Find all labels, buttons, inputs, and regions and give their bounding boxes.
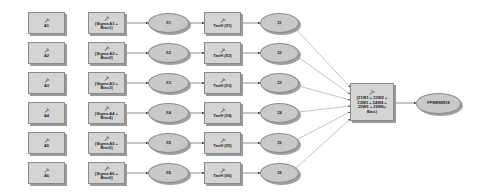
node-label: Z5 — [277, 141, 282, 146]
tanh-node-2[interactable]: TanH (X2) — [204, 42, 241, 64]
variable-z4[interactable]: Z4 — [260, 103, 299, 123]
node-label: [Sigma A1 + Bias1] — [95, 22, 118, 31]
hammer-icon — [44, 168, 50, 173]
sum-node-6[interactable]: [Sigma A6 + Bias6] — [88, 162, 125, 184]
hammer-icon — [220, 48, 226, 53]
hammer-icon — [104, 76, 110, 81]
node-label: A5 — [44, 144, 49, 149]
variable-z5[interactable]: Z5 — [260, 133, 299, 153]
node-label: Z6 — [277, 171, 282, 176]
node-label: X3 — [166, 81, 171, 86]
node-label: TanH (X2) — [213, 54, 231, 59]
hammer-icon — [104, 106, 110, 111]
input-node-a3[interactable]: A3 — [28, 72, 65, 94]
variable-x3[interactable]: X3 — [148, 73, 189, 93]
tanh-node-1[interactable]: TanH (X1) — [204, 12, 241, 34]
hammer-icon — [44, 138, 50, 143]
node-label: A1 — [44, 24, 49, 29]
variable-x2[interactable]: X2 — [148, 43, 189, 63]
node-label: [Sigma A6 + Bias6] — [95, 172, 118, 181]
node-label: [Z1W1 + Z2W2 + Z3W3 + Z4W4 + Z5W5 + Z6W6… — [357, 96, 388, 114]
variable-z1[interactable]: Z1 — [260, 13, 299, 33]
hammer-icon — [104, 16, 110, 21]
node-label: Z1 — [277, 21, 282, 26]
node-label: X6 — [166, 171, 171, 176]
node-label: TanH (X5) — [213, 144, 231, 149]
node-label: [Sigma A2 + Bias2] — [95, 52, 118, 61]
hammer-icon — [44, 48, 50, 53]
hammer-icon — [220, 138, 226, 143]
output-node[interactable]: FPMKMM18 — [416, 93, 461, 114]
variable-z3[interactable]: Z3 — [260, 73, 299, 93]
input-node-a5[interactable]: A5 — [28, 132, 65, 154]
sum-node-2[interactable]: [Sigma A2 + Bias2] — [88, 42, 125, 64]
hammer-icon — [220, 108, 226, 113]
node-label: [Sigma A5 + Bias5] — [95, 142, 118, 151]
node-label: [Sigma A4 + Bias4] — [95, 112, 118, 121]
sum-node-5[interactable]: [Sigma A5 + Bias5] — [88, 132, 125, 154]
node-label: [Sigma A3 + Bias3] — [95, 82, 118, 91]
node-label: TanH (X3) — [213, 84, 231, 89]
tanh-node-3[interactable]: TanH (X3) — [204, 72, 241, 94]
variable-z6[interactable]: Z6 — [260, 163, 299, 183]
node-label: Z3 — [277, 81, 282, 86]
sum-node-3[interactable]: [Sigma A3 + Bias3] — [88, 72, 125, 94]
hammer-icon — [220, 78, 226, 83]
node-label: FPMKMM18 — [427, 101, 449, 106]
hammer-icon — [220, 18, 226, 23]
input-node-a1[interactable]: A1 — [28, 12, 65, 34]
input-node-a2[interactable]: A2 — [28, 42, 65, 64]
node-label: A3 — [44, 84, 49, 89]
hammer-icon — [104, 136, 110, 141]
variable-x1[interactable]: X1 — [148, 13, 189, 33]
sum-node-1[interactable]: [Sigma A1 + Bias1] — [88, 12, 125, 34]
tanh-node-5[interactable]: TanH (X5) — [204, 132, 241, 154]
sum-node-4[interactable]: [Sigma A4 + Bias4] — [88, 102, 125, 124]
hammer-icon — [44, 18, 50, 23]
node-label: A2 — [44, 54, 49, 59]
tanh-node-4[interactable]: TanH (X4) — [204, 102, 241, 124]
tanh-node-6[interactable]: TanH (X6) — [204, 162, 241, 184]
node-label: Z4 — [277, 111, 282, 116]
node-label: X5 — [166, 141, 171, 146]
hammer-icon — [220, 168, 226, 173]
input-node-a6[interactable]: A6 — [28, 162, 65, 184]
variable-x4[interactable]: X4 — [148, 103, 189, 123]
hammer-icon — [44, 78, 50, 83]
node-label: A4 — [44, 114, 49, 119]
model-canvas: A1 [Sigma A1 + Bias1] X1 TanH (X1) Z1 A2… — [0, 0, 484, 196]
hammer-icon — [104, 166, 110, 171]
variable-x6[interactable]: X6 — [148, 163, 189, 183]
variable-z2[interactable]: Z2 — [260, 43, 299, 63]
hammer-icon — [104, 46, 110, 51]
node-label: X1 — [166, 21, 171, 26]
node-label: X4 — [166, 111, 171, 116]
connector-lines — [0, 0, 484, 196]
node-label: X2 — [166, 51, 171, 56]
node-label: TanH (X4) — [213, 114, 231, 119]
hammer-icon — [44, 108, 50, 113]
input-node-a4[interactable]: A4 — [28, 102, 65, 124]
node-label: Z2 — [277, 51, 282, 56]
node-label: A6 — [44, 174, 49, 179]
combine-node[interactable]: [Z1W1 + Z2W2 + Z3W3 + Z4W4 + Z5W5 + Z6W6… — [350, 83, 394, 121]
node-label: TanH (X6) — [213, 174, 231, 179]
variable-x5[interactable]: X5 — [148, 133, 189, 153]
node-label: TanH (X1) — [213, 24, 231, 29]
